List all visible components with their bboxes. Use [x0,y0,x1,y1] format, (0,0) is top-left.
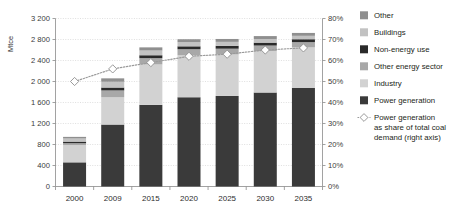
bar-segment [101,78,124,81]
bar-segment [292,36,315,39]
bar-segment [63,138,86,141]
legend-item[interactable]: Buildings [360,28,406,37]
bar-segment [139,51,162,56]
legend-label: Buildings [374,28,406,37]
bar-segment [63,142,86,144]
legend-item[interactable]: Power generation [360,96,435,105]
bar-segment [63,143,86,145]
y-axis-left-tick-label: 3 200 [31,14,50,23]
coal-demand-stacked-bar-chart: 04008001 2001 6002 0002 4002 8003 2000%1… [0,0,453,215]
legend-label: Other [374,11,394,20]
x-axis-category-label: 2000 [66,194,84,203]
legend-label: Power generation [374,96,435,105]
bar-segment [292,39,315,42]
y-axis-right: 0%10%20%30%40%50%60%70%80% [323,14,344,191]
y-axis-right-tick-label: 40% [328,98,343,107]
bar-segment [101,125,124,187]
bar-stack [254,36,277,186]
bar-segment [101,88,124,91]
bar-segment [216,54,239,95]
x-axis-category-label: 2015 [142,194,160,203]
bar-stack [178,39,201,186]
y-axis-right-tick-label: 30% [328,119,343,128]
legend-marker-diamond [360,114,368,122]
legend-label: Power generation [374,113,435,122]
bar-segment [101,90,124,97]
bar-segment [292,33,315,36]
x-axis-ticks [56,187,323,191]
y-axis-right-tick-label: 20% [328,140,343,149]
x-axis-category-label: 2020 [180,194,198,203]
bar-segment [101,82,124,88]
x-axis-category-label: 2009 [104,194,122,203]
legend-item[interactable]: Other energy sector [360,62,443,71]
legend-label-line2: as share of total coal [374,123,446,132]
bar-segment [216,96,239,187]
bar-stack [139,47,162,186]
y-axis-left-tick-label: 400 [37,161,50,170]
y-axis-left-tick-label: 0 [46,182,50,191]
bar-segment [254,93,277,187]
bar-segment [292,88,315,187]
y-axis-right-tick-label: 80% [328,14,343,23]
x-axis-category-label: 2025 [218,194,236,203]
y-axis-title: Mtce [6,36,15,52]
legend-swatch [360,62,368,70]
y-axis-left: 04008001 2001 6002 0002 4002 8003 200 [31,14,56,191]
legend-label: Non-energy use [374,45,429,54]
share-line-marker [109,65,117,73]
x-axis-labels: 2000200920152020202520302035 [66,194,313,203]
y-axis-right-tick-label: 70% [328,35,343,44]
legend-label: Industry [374,79,402,88]
bar-segment [101,97,124,124]
share-line-marker [70,77,78,85]
bar-segment [216,46,239,49]
bar-stack [101,78,124,186]
bar-segment [254,51,277,92]
bar-segment [254,39,277,43]
legend-item[interactable]: Other [360,11,394,20]
bar-segment [63,162,86,186]
legend-item[interactable]: Non-energy use [360,45,429,54]
legend-swatch [360,79,368,87]
y-axis-right-tick-label: 60% [328,56,343,65]
bar-segment [63,137,86,139]
bar-stack [216,39,239,187]
chart-svg: 04008001 2001 6002 0002 4002 8003 2000%1… [0,0,453,215]
legend-swatch [360,45,368,53]
bar-segment [139,105,162,187]
bar-stack [63,137,86,187]
legend-label-line3: demand (right axis) [374,133,441,142]
y-axis-left-tick-label: 1 200 [31,119,50,128]
y-axis-right-tick-label: 10% [328,161,343,170]
bar-segment [254,43,277,46]
y-axis-right-tick-label: 50% [328,77,343,86]
legend-swatch [360,28,368,36]
bar-segment [178,97,201,186]
y-axis-left-tick-label: 2 000 [31,77,50,86]
legend: OtherBuildingsNon-energy useOther energy… [358,11,447,141]
legend-label: Other energy sector [374,62,443,71]
bar-segment [139,64,162,104]
bar-stack [292,33,315,187]
bar-segment [216,39,239,42]
legend-item[interactable]: Industry [360,79,402,88]
bar-segment [139,55,162,58]
bar-segment [254,36,277,39]
bar-segment [178,46,201,49]
bar-segment [178,42,201,46]
legend-swatch [360,11,368,19]
bar-segment [178,55,201,97]
bar-segment [216,42,239,46]
x-axis-category-label: 2030 [256,194,274,203]
y-axis-left-tick-label: 800 [37,140,50,149]
bar-segment [63,145,86,162]
bar-segment [178,39,201,42]
bar-segment [139,47,162,50]
bar-segment [292,47,315,87]
y-axis-left-tick-label: 2 800 [31,35,50,44]
x-axis-category-label: 2035 [295,194,313,203]
legend-swatch [360,96,368,104]
y-axis-left-tick-label: 2 400 [31,56,50,65]
legend-item[interactable]: Power generationas share of total coalde… [358,113,447,141]
